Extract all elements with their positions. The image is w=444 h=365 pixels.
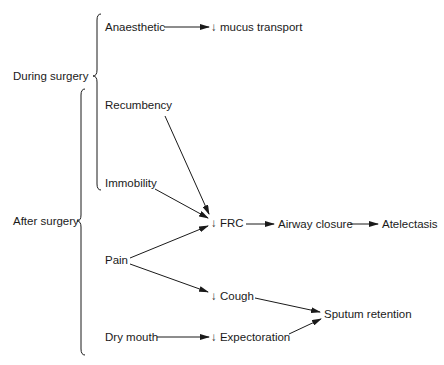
node-dry-mouth: Dry mouth <box>105 330 158 344</box>
node-anaesthetic: Anaesthetic <box>105 20 165 34</box>
edge-expectoration-sputum <box>289 319 321 334</box>
node-expectoration: ↓ Expectoration <box>211 330 290 344</box>
group-label-during-surgery: During surgery <box>13 69 88 83</box>
node-cough: ↓ Cough <box>211 289 254 303</box>
node-pain: Pain <box>105 253 128 267</box>
node-immobility: Immobility <box>105 176 157 190</box>
group-label-after-surgery: After surgery <box>13 214 79 228</box>
edge-pain-cough <box>130 264 208 292</box>
node-sputum-retention: Sputum retention <box>324 307 412 321</box>
edge-pain-frc <box>130 226 208 258</box>
node-airway-closure: Airway closure <box>278 217 353 231</box>
edge-cough-sputum <box>255 298 320 312</box>
node-mucus-transport: ↓ mucus transport <box>211 20 302 34</box>
edge-recumbency-frc <box>165 116 209 214</box>
node-atelectasis: Atelectasis <box>382 217 438 231</box>
node-recumbency: Recumbency <box>105 98 172 112</box>
node-frc: ↓ FRC <box>211 216 244 230</box>
during-surgery-brace <box>93 14 101 190</box>
